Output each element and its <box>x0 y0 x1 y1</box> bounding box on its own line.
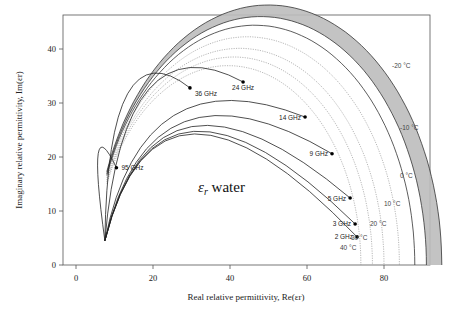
y-axis-ticks: 010203040 <box>48 44 64 270</box>
x-tick-label: 60 <box>303 273 312 283</box>
temperature-label: 40 °C <box>340 244 357 251</box>
temperature-label: 0 °C <box>400 172 413 179</box>
frequency-point <box>188 86 192 90</box>
temperature-label: 30 °C <box>351 234 368 241</box>
y-axis-title: Imaginary relative permittivity, Im(εr) <box>14 71 24 209</box>
shaded-band <box>107 5 442 265</box>
temperature-label: 10 °C <box>384 200 401 207</box>
temperature-curve <box>107 66 361 265</box>
frequency-point <box>303 115 307 119</box>
x-tick-label: 80 <box>380 273 389 283</box>
temperature-label: -20 °C <box>392 62 411 69</box>
frequency-point <box>330 152 334 156</box>
x-axis-title: Real relative permittivity, Re(εr) <box>187 292 304 302</box>
annotation-text: water <box>208 179 245 195</box>
y-tick-label: 40 <box>48 44 57 54</box>
frequency-label: 95 GHz <box>121 164 143 171</box>
frequency-label: 9 GHz <box>310 150 328 157</box>
permittivity-chart: 95 GHz36 GHz24 GHz14 GHz9 GHz5 GHz3 GHz2… <box>0 0 450 319</box>
temperature-label: 20 °C <box>370 220 387 227</box>
x-tick-label: 20 <box>149 273 158 283</box>
y-tick-label: 30 <box>48 98 57 108</box>
frequency-point <box>353 222 357 226</box>
frequency-point <box>115 166 119 170</box>
x-axis-ticks: 020406080 <box>74 265 388 283</box>
x-tick-label: 0 <box>74 273 78 283</box>
frequency-point <box>348 196 352 200</box>
y-tick-label: 20 <box>48 152 57 162</box>
temperature-curve <box>107 5 442 265</box>
frequency-arc <box>105 67 243 240</box>
frequency-label: 5 GHz <box>328 195 346 202</box>
y-tick-label: 0 <box>52 260 56 270</box>
y-tick-label: 10 <box>48 206 57 216</box>
shaded-band-layer <box>107 5 442 265</box>
frequency-label: 36 GHz <box>195 90 217 97</box>
chart-annotation: εr water <box>198 179 245 197</box>
x-tick-label: 40 <box>226 273 235 283</box>
frequency-points-layer: 95 GHz36 GHz24 GHz14 GHz9 GHz5 GHz3 GHz2… <box>115 80 359 240</box>
frequency-label: 14 GHz <box>279 114 301 121</box>
frequency-label: 24 GHz <box>232 84 254 91</box>
temperature-label: -10 °C <box>400 124 419 131</box>
frequency-label: 3 GHz <box>333 220 351 227</box>
temperature-curves-layer <box>107 5 442 265</box>
